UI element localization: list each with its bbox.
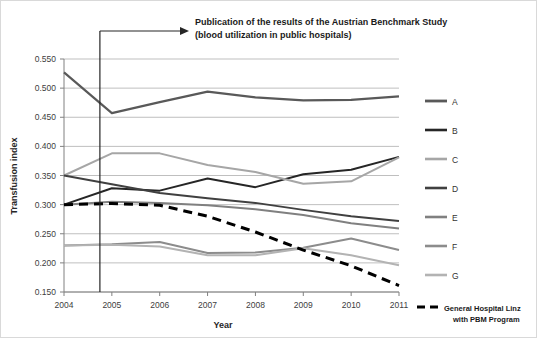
x-axis-tick-label: 2007	[198, 300, 217, 310]
legend-group: ABCDEFG	[417, 97, 459, 308]
legend-label-e: E	[452, 213, 458, 223]
x-axis-tick-label: 2005	[102, 300, 121, 310]
y-axis-tick-label: 0.150	[35, 287, 57, 297]
annotation-line-1: Publication of the results of the Austri…	[195, 17, 447, 27]
series-line-c	[64, 153, 399, 183]
x-axis-title: Year	[213, 320, 233, 330]
x-axis-tick-label: 2009	[294, 300, 313, 310]
data-series-group	[64, 72, 399, 285]
legend-label-c: C	[452, 155, 458, 165]
annotation-group	[100, 27, 189, 292]
legend-label-d: D	[452, 184, 458, 194]
y-axis-tick-label: 0.350	[35, 171, 57, 181]
chart-figure: 0.1500.2000.2500.3000.3500.4000.4500.500…	[0, 0, 537, 338]
y-axis-tick-label: 0.450	[35, 112, 57, 122]
x-axis-tick-labels: 20042005200620072008200920102011	[55, 292, 409, 310]
series-line-a	[64, 72, 399, 113]
legend-label-b: B	[452, 126, 458, 136]
legend-label-pbm-line1: General Hospital Linz	[444, 304, 521, 313]
y-axis-tick-label: 0.400	[35, 141, 57, 151]
y-axis-tick-label: 0.200	[35, 258, 57, 268]
line-chart-svg: 0.1500.2000.2500.3000.3500.4000.4500.500…	[1, 1, 537, 338]
legend-label-g: G	[452, 271, 459, 281]
annotation-arrow-head-icon	[180, 27, 189, 35]
series-line-g	[64, 245, 399, 265]
chart-plot-container: 0.1500.2000.2500.3000.3500.4000.4500.500…	[1, 1, 537, 338]
x-axis-tick-label: 2010	[342, 300, 361, 310]
legend-label-pbm-line2: with PBM Program	[452, 315, 520, 324]
y-axis-tick-label: 0.500	[35, 83, 57, 93]
y-axis-tick-label: 0.250	[35, 229, 57, 239]
x-axis-tick-label: 2006	[150, 300, 169, 310]
y-axis-tick-label: 0.300	[35, 200, 57, 210]
x-axis-tick-label: 2004	[55, 300, 74, 310]
y-axis-title: Transfusion index	[9, 137, 19, 214]
y-axis-tick-labels: 0.1500.2000.2500.3000.3500.4000.4500.500…	[35, 54, 57, 297]
x-axis-tick-label: 2011	[390, 300, 409, 310]
legend-label-f: F	[452, 242, 457, 252]
y-axis-tick-label: 0.550	[35, 54, 57, 64]
legend-label-a: A	[452, 97, 458, 107]
x-axis-tick-label: 2008	[246, 300, 265, 310]
annotation-line-2: (blood utilization in public hospitals)	[195, 30, 352, 40]
